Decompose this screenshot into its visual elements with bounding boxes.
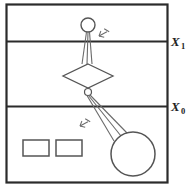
lower-connector-line xyxy=(89,96,122,137)
figure-container: X 1 X 0 xyxy=(0,0,191,193)
lower-connector-line xyxy=(87,96,114,142)
upper-connector-line xyxy=(87,32,88,64)
lower-connector-fan xyxy=(87,95,127,141)
lower-connector-line xyxy=(90,95,127,133)
upper-connector-line xyxy=(90,32,93,64)
lower-reference-label-main: X xyxy=(170,99,180,114)
rectangle-left xyxy=(23,140,49,156)
upper-reference-label-subscript: 1 xyxy=(181,41,185,51)
upper-connector-line xyxy=(82,32,87,64)
upper-node-circle xyxy=(81,18,95,32)
lower-hatch-annotation xyxy=(78,117,91,129)
upper-reference-label-main: X xyxy=(170,34,180,49)
technical-diagram: X 1 X 0 xyxy=(0,0,191,193)
pivot-node-circle xyxy=(85,89,92,96)
large-circle xyxy=(111,132,155,176)
upper-reference-label: X 1 xyxy=(170,34,185,51)
lower-reference-label: X 0 xyxy=(170,99,185,116)
lower-reference-label-subscript: 0 xyxy=(181,106,185,116)
upper-hatch-annotation xyxy=(97,27,110,39)
rectangle-right xyxy=(56,140,82,156)
upper-connector-fan xyxy=(82,32,92,64)
diamond-shape xyxy=(63,64,113,88)
